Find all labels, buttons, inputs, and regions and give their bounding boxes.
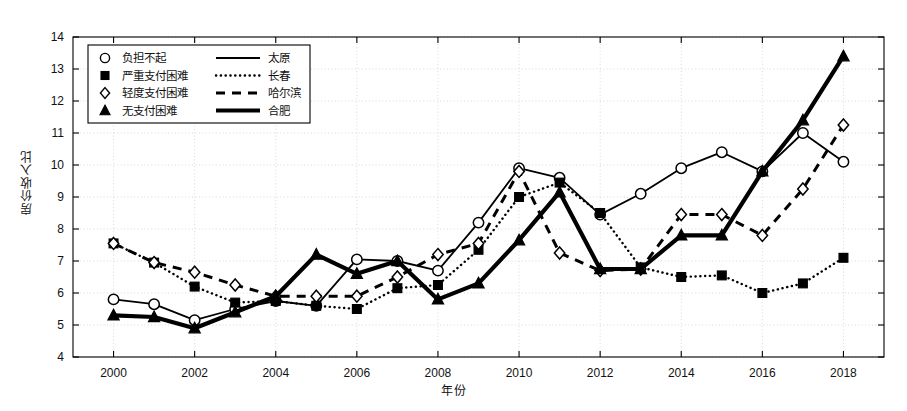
x-tick-label: 2010 [506, 366, 533, 380]
y-tick-label: 4 [57, 350, 64, 364]
x-tick-label: 2008 [425, 366, 452, 380]
y-tick-label: 8 [57, 222, 64, 236]
legend-category-label: 轻度支付困难 [122, 86, 188, 100]
legend-marker-circle [100, 53, 109, 62]
marker-diamond [352, 290, 362, 302]
marker-triangle [311, 249, 322, 260]
y-tick-label: 9 [57, 190, 64, 204]
marker-circle [149, 299, 159, 309]
legend-marker-square [101, 72, 109, 80]
marker-square [352, 305, 361, 314]
x-tick-label: 2014 [668, 366, 695, 380]
marker-circle [433, 265, 443, 275]
marker-square [799, 279, 808, 288]
x-tick-label: 2000 [100, 366, 127, 380]
y-tick-label: 7 [57, 254, 64, 268]
legend-category-label: 负担不起 [122, 51, 167, 65]
legend-category-label: 严重支付困难 [122, 69, 188, 83]
legend-city-label: 太原 [268, 51, 290, 65]
x-tick-label: 2002 [181, 366, 208, 380]
marker-diamond [433, 249, 443, 261]
x-tick-label: 2016 [749, 366, 776, 380]
legend-city-label: 长春 [268, 69, 291, 83]
marker-circle [108, 294, 118, 304]
x-tick-label: 2004 [262, 366, 289, 380]
marker-circle [636, 189, 646, 199]
x-tick-label: 2012 [587, 366, 614, 380]
marker-circle [798, 128, 808, 138]
marker-circle [838, 157, 848, 167]
marker-square [393, 284, 402, 293]
line-chart: 4567891011121314200020022004200620082010… [0, 0, 907, 411]
marker-circle [473, 217, 483, 227]
legend-city-label: 哈尔滨 [268, 86, 302, 100]
marker-triangle [554, 186, 565, 197]
y-tick-label: 5 [57, 318, 64, 332]
series-line [114, 125, 844, 296]
marker-square [515, 193, 524, 202]
y-tick-label: 13 [51, 62, 65, 76]
marker-circle [676, 163, 686, 173]
y-tick-label: 10 [51, 158, 65, 172]
y-tick-label: 6 [57, 286, 64, 300]
marker-diamond [717, 209, 727, 221]
marker-square [677, 273, 686, 282]
legend: 负担不起太原严重支付困难长春轻度支付困难哈尔滨无支付困难合肥 [88, 45, 310, 123]
marker-diamond [554, 247, 564, 259]
x-tick-label: 2018 [830, 366, 857, 380]
y-tick-label: 14 [51, 30, 65, 44]
marker-square [717, 271, 726, 280]
marker-square [758, 289, 767, 298]
marker-square [434, 281, 443, 290]
figure: 房价收入比 年份 4567891011121314200020022004200… [0, 0, 907, 411]
y-tick-label: 11 [52, 126, 65, 140]
marker-square [190, 282, 199, 291]
marker-square [596, 209, 605, 218]
marker-triangle [838, 50, 849, 61]
marker-diamond [189, 266, 199, 278]
series-太原 [108, 128, 848, 326]
marker-circle [352, 254, 362, 264]
legend-city-label: 合肥 [268, 104, 291, 118]
x-tick-label: 2006 [343, 366, 370, 380]
marker-diamond [392, 271, 402, 283]
y-tick-label: 12 [51, 94, 65, 108]
marker-square [839, 253, 848, 262]
marker-circle [717, 147, 727, 157]
legend-category-label: 无支付困难 [122, 104, 177, 118]
marker-diamond [230, 279, 240, 291]
